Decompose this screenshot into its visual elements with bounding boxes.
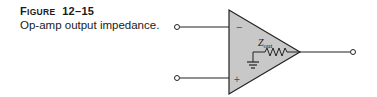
minus-sign: − xyxy=(236,21,242,33)
output-terminal-icon xyxy=(351,50,356,55)
op-amp-diagram: − + Zout xyxy=(0,0,377,97)
noninverting-input-terminal-icon xyxy=(175,76,180,81)
inverting-input-terminal-icon xyxy=(175,25,180,30)
plus-sign: + xyxy=(234,74,240,85)
